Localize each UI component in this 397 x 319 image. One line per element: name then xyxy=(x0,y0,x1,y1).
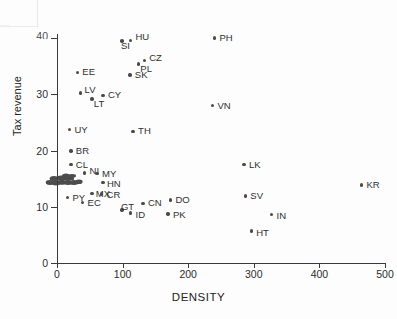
data-point-label-lv: LV xyxy=(85,85,96,95)
data-point-label-id: ID xyxy=(136,210,146,220)
data-point-cl xyxy=(69,163,72,166)
data-point-ee xyxy=(76,71,79,74)
x-tick-label-500: 500 xyxy=(365,268,397,280)
data-point-label-cr: CR xyxy=(107,190,121,200)
data-point-label-ee: EE xyxy=(82,67,95,77)
data-point-label-ht: HT xyxy=(256,228,269,238)
data-point-label-my: MY xyxy=(102,169,116,179)
data-point-ec xyxy=(81,201,84,204)
x-axis-title: DENSITY xyxy=(0,291,397,303)
data-point-label-lt: LT xyxy=(94,99,104,109)
overlapping-label-cluster-glyphs xyxy=(42,170,104,190)
data-point-label-uy: UY xyxy=(75,125,88,135)
data-point-cn xyxy=(141,202,144,205)
data-point-kr xyxy=(360,183,363,186)
data-point-label-sk: SK xyxy=(135,70,148,80)
data-point-ph xyxy=(213,36,216,39)
data-point-label-th: TH xyxy=(138,126,151,136)
data-point-sv xyxy=(244,194,247,197)
data-point-label-br: BR xyxy=(76,146,89,156)
data-point-vn xyxy=(211,104,214,107)
data-point-label-hu: HU xyxy=(136,32,150,42)
data-point-label-in: IN xyxy=(277,211,287,221)
x-tick-label-300: 300 xyxy=(234,268,274,280)
y-tick-label-10: 10 xyxy=(14,201,48,213)
data-point-id xyxy=(129,211,132,214)
x-tick-label-200: 200 xyxy=(168,268,208,280)
data-point-th xyxy=(131,130,134,133)
data-point-sk xyxy=(128,73,131,76)
data-point-py xyxy=(66,196,69,199)
data-point-lk xyxy=(242,163,245,166)
data-point-label-cz: CZ xyxy=(149,53,162,63)
y-tick-30 xyxy=(51,94,57,95)
y-tick-40 xyxy=(51,38,57,39)
data-point-cz xyxy=(143,59,146,62)
data-point-label-ph: PH xyxy=(219,33,232,43)
data-point-in xyxy=(270,213,273,216)
data-point-label-gt: GT xyxy=(121,202,134,212)
data-point-label-cy: CY xyxy=(108,90,121,100)
data-point-label-ec: EC xyxy=(88,198,101,208)
data-point-pk xyxy=(166,212,169,215)
data-point-label-hn: HN xyxy=(107,179,121,189)
data-point-label-kr: KR xyxy=(366,180,379,190)
data-point-do xyxy=(169,198,172,201)
scatter-plot-figure: 010203040 0100200300400500 PHHUSICZPLEES… xyxy=(0,0,397,319)
overlapping-label-cluster xyxy=(42,170,104,192)
y-tick-10 xyxy=(51,207,57,208)
scan-edge-artifact-horizontal-2 xyxy=(0,25,10,26)
data-point-mx xyxy=(90,192,93,195)
y-axis-line xyxy=(57,34,58,264)
data-point-label-vn: VN xyxy=(218,101,231,111)
data-point-cy xyxy=(101,94,104,97)
data-point-label-pk: PK xyxy=(173,210,186,220)
y-axis-title: Tax revenue xyxy=(11,51,23,161)
y-tick-label-40: 40 xyxy=(14,30,48,39)
data-point-br xyxy=(69,149,72,152)
scan-edge-artifact-vertical xyxy=(37,0,38,27)
data-point-label-do: DO xyxy=(176,195,190,205)
x-tick-label-0: 0 xyxy=(37,268,77,280)
data-point-cr xyxy=(100,192,103,195)
data-point-label-sv: SV xyxy=(250,191,263,201)
data-point-label-si: SI xyxy=(121,41,130,51)
data-point-uy xyxy=(68,128,71,131)
x-axis-line xyxy=(57,263,386,264)
data-point-label-cl: CL xyxy=(76,160,88,170)
x-tick-label-100: 100 xyxy=(103,268,143,280)
data-point-ht xyxy=(250,229,253,232)
data-point-label-cn: CN xyxy=(148,198,162,208)
data-point-lv xyxy=(79,91,82,94)
data-point-label-lk: LK xyxy=(249,160,261,170)
y-tick-20 xyxy=(51,151,57,152)
scan-edge-artifact-horizontal xyxy=(0,26,38,27)
x-tick-label-400: 400 xyxy=(299,268,339,280)
